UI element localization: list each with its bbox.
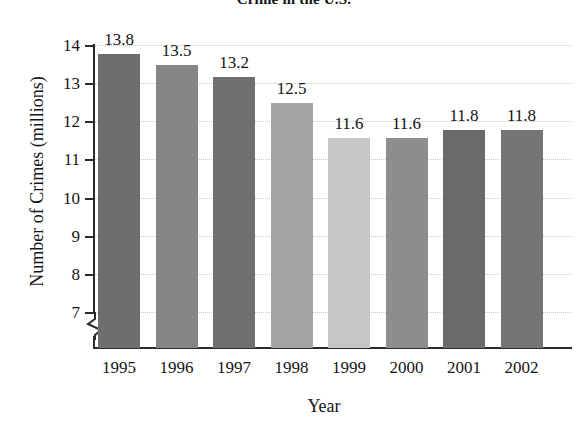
bar — [271, 103, 313, 348]
bars-container — [93, 45, 572, 348]
y-axis-tick-label: 14 — [40, 37, 80, 54]
bar-value-label: 11.8 — [492, 107, 552, 124]
y-axis-tick-label: 9 — [40, 228, 80, 245]
bar-value-label: 11.6 — [319, 115, 379, 132]
bar-value-label: 13.2 — [204, 54, 264, 71]
bar-value-label: 13.8 — [89, 31, 149, 48]
x-axis-tick-label: 1996 — [147, 359, 207, 376]
bar-value-label: 13.5 — [147, 42, 207, 59]
x-axis-tick-label: 1997 — [204, 359, 264, 376]
y-axis-tick-label: 8 — [40, 266, 80, 283]
x-axis-tick-label: 1999 — [319, 359, 379, 376]
bar-value-label: 11.6 — [377, 115, 437, 132]
y-axis-tick-label: 12 — [40, 113, 80, 130]
y-axis-tick-label: 10 — [40, 190, 80, 207]
bar-chart: Crime in the U.S. Number of Crimes (mill… — [0, 0, 588, 433]
bar-value-label: 12.5 — [262, 80, 322, 97]
x-axis-tick-label: 2002 — [492, 359, 552, 376]
bar — [328, 138, 370, 348]
y-axis-tick-label: 11 — [40, 151, 80, 168]
bar — [98, 54, 140, 348]
bar — [443, 130, 485, 348]
y-axis-tick-label: 7 — [40, 304, 80, 321]
bar — [501, 130, 543, 348]
bar — [386, 138, 428, 348]
y-axis-tick-label: 13 — [40, 75, 80, 92]
x-axis-title: Year — [93, 396, 555, 417]
x-axis-tick-label: 2000 — [377, 359, 437, 376]
x-axis-tick-label: 1995 — [89, 359, 149, 376]
x-axis-tick-label: 2001 — [434, 359, 494, 376]
bar — [156, 65, 198, 348]
chart-title: Crime in the U.S. — [0, 0, 588, 8]
bar — [213, 77, 255, 348]
bar-value-label: 11.8 — [434, 107, 494, 124]
x-axis-tick-label: 1998 — [262, 359, 322, 376]
